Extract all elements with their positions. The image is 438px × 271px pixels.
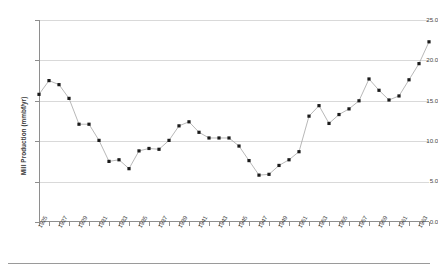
- y-tick-label: 15.0: [404, 98, 438, 104]
- y-tick-mark: [35, 222, 39, 223]
- gridline: [40, 20, 429, 21]
- y-tick-mark: [35, 60, 39, 61]
- y-tick-mark: [35, 101, 39, 102]
- footer-divider: [8, 263, 430, 264]
- y-tick-label: 0.0: [404, 219, 438, 225]
- plot-area: [39, 20, 429, 222]
- y-tick-mark: [35, 182, 39, 183]
- y-tick-mark: [35, 20, 39, 21]
- chart-figure: Mill Production (mmbf/yr) 19251927192919…: [0, 0, 438, 271]
- y-tick-label: 20.0: [404, 57, 438, 63]
- gridline: [40, 60, 429, 61]
- y-tick-label: 10.0: [404, 138, 438, 144]
- gridlines: [40, 20, 429, 221]
- x-axis-labels: 1925192719291931193319351937193919411943…: [0, 226, 438, 266]
- gridline: [40, 182, 429, 183]
- gridline: [40, 141, 429, 142]
- y-tick-label: 25.0: [404, 17, 438, 23]
- y-tick-mark: [35, 141, 39, 142]
- y-tick-label: 5.0: [404, 178, 438, 184]
- gridline: [40, 101, 429, 102]
- y-axis-title: Mill Production (mmbf/yr): [20, 61, 27, 211]
